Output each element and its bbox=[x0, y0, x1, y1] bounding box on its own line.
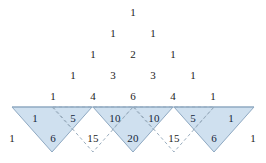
pascal-cell: 1 bbox=[190, 70, 196, 81]
pascal-cell: 6 bbox=[130, 91, 136, 102]
solid-tile-2 bbox=[93, 107, 173, 152]
pascal-cell: 3 bbox=[150, 70, 156, 81]
pascal-cell: 10 bbox=[148, 113, 159, 124]
pascal-cell: 15 bbox=[168, 133, 179, 144]
solid-tile-3 bbox=[174, 107, 254, 152]
pascal-cell: 1 bbox=[170, 49, 176, 60]
pascal-cell: 10 bbox=[109, 113, 120, 124]
pascal-cell: 5 bbox=[190, 113, 196, 124]
pascal-triangle-figure: 1 1 1 1 2 1 1 3 3 1 1 4 6 4 1 1 5 10 10 … bbox=[0, 0, 266, 163]
pascal-cell: 1 bbox=[50, 91, 56, 102]
pascal-cell: 1 bbox=[210, 91, 216, 102]
solid-tiles-group bbox=[12, 107, 254, 152]
pascal-cell: 1 bbox=[9, 133, 15, 144]
pascal-cell: 1 bbox=[110, 28, 116, 39]
pascal-cell: 1 bbox=[130, 7, 136, 18]
pascal-cell: 1 bbox=[228, 113, 234, 124]
pascal-cell: 3 bbox=[110, 70, 116, 81]
pascal-cell: 20 bbox=[127, 133, 138, 144]
pascal-cell: 1 bbox=[250, 133, 256, 144]
pascal-cell: 6 bbox=[211, 133, 217, 144]
solid-tile-1 bbox=[12, 107, 92, 152]
pascal-cell: 2 bbox=[130, 49, 136, 60]
pascal-cell: 5 bbox=[70, 113, 76, 124]
pascal-cell: 1 bbox=[90, 49, 96, 60]
pascal-cell: 1 bbox=[70, 70, 76, 81]
pascal-cell: 1 bbox=[32, 113, 38, 124]
pascal-cell: 1 bbox=[150, 28, 156, 39]
pascal-cell: 4 bbox=[90, 91, 96, 102]
pascal-cell: 15 bbox=[87, 133, 98, 144]
pascal-cell: 6 bbox=[50, 133, 56, 144]
pascal-cell: 4 bbox=[170, 91, 176, 102]
